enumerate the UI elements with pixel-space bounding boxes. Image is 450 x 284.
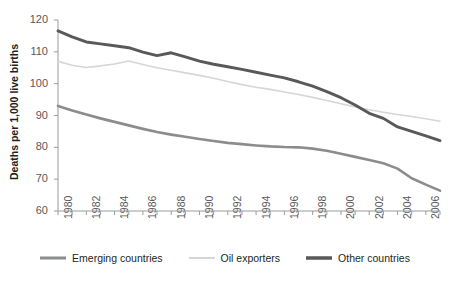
line-chart: Deaths per 1,000 live births 60708090100… bbox=[0, 0, 450, 284]
chart-legend: Emerging countries Oil exporters Other c… bbox=[0, 252, 450, 264]
legend-swatch-other-countries bbox=[306, 254, 332, 262]
legend-item-emerging-countries: Emerging countries bbox=[40, 252, 162, 264]
legend-label-emerging-countries: Emerging countries bbox=[72, 252, 162, 264]
legend-item-oil-exporters: Oil exporters bbox=[189, 252, 281, 264]
legend-swatch-oil-exporters bbox=[189, 254, 215, 262]
legend-label-other-countries: Other countries bbox=[338, 252, 410, 264]
legend-label-oil-exporters: Oil exporters bbox=[221, 252, 281, 264]
plot-area bbox=[0, 0, 450, 284]
legend-item-other-countries: Other countries bbox=[306, 252, 410, 264]
legend-swatch-emerging-countries bbox=[40, 254, 66, 262]
